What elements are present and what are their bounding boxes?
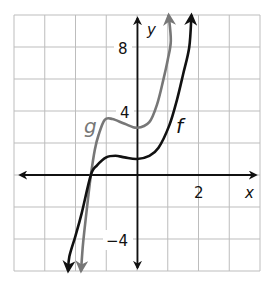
x-tick-2: 2 [194, 184, 204, 202]
y-tick-neg4: −4 [106, 232, 128, 250]
y-tick-8: 8 [118, 40, 128, 58]
y-tick-4: 4 [120, 104, 130, 122]
x-axis-label: x [244, 184, 254, 202]
function-graph: 8 4 −4 2 x y g f [0, 0, 265, 288]
curve-label-g: g [84, 114, 97, 138]
curve-label-f: f [176, 114, 186, 138]
y-axis-label: y [146, 21, 157, 39]
